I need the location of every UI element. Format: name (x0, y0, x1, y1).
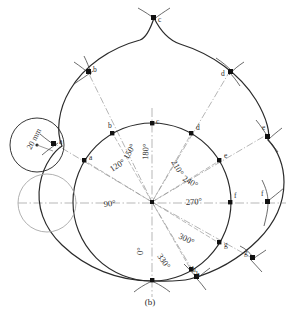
construction-drawing: 20 mm (0, 0, 300, 320)
outer-label-g: g (244, 248, 248, 257)
outer-marker-d (228, 69, 233, 74)
outer-marker-b (86, 69, 91, 74)
inner-marker-b (110, 131, 114, 135)
inner-marker-e (217, 158, 221, 162)
arc-g-3 (251, 260, 262, 272)
angle-labels: 0° 90° 120° 150° 180° 210° 240° 270° 300… (103, 142, 202, 271)
outer-label-f: f (261, 189, 264, 198)
arc-e-3 (267, 138, 278, 152)
outer-label-c: c (158, 15, 162, 24)
inner-marker-f (228, 200, 232, 204)
center-marker (150, 200, 154, 204)
outer-label-e: e (262, 123, 266, 132)
figure-canvas: 20 mm (0, 0, 300, 320)
radial-line-g (152, 202, 252, 258)
angle-label-300: 300° (177, 231, 196, 247)
angle-label-150: 150° (121, 142, 137, 161)
outer-label-b: b (93, 65, 97, 74)
outer-marker-g (250, 255, 255, 260)
outer-label-a: a (59, 137, 63, 146)
arc-zero-2 (154, 282, 170, 292)
spoke-d (152, 134, 191, 202)
inner-label-a: a (89, 153, 93, 162)
inner-marker-a (82, 158, 86, 162)
outer-point-markers (51, 15, 270, 279)
outer-marker-a (51, 141, 56, 146)
inner-label-b: b (108, 121, 112, 130)
outer-marker-f (265, 199, 270, 204)
arc-zero-1 (134, 282, 150, 292)
outer-label-h: h (192, 265, 196, 274)
inner-label-c: c (156, 117, 160, 126)
arc-e-2 (268, 128, 282, 140)
radial-line-e (152, 134, 268, 202)
angle-label-0: 0° (135, 247, 145, 255)
outer-marker-c (151, 15, 156, 20)
figure-caption: (b) (0, 297, 300, 307)
angle-label-90: 90° (103, 198, 116, 209)
inner-label-d: d (196, 123, 200, 132)
inner-marker-zero (150, 278, 154, 282)
outer-marker-e (265, 134, 270, 139)
inner-marker-c (150, 121, 154, 125)
outer-label-d: d (221, 69, 225, 78)
angle-label-270: 270° (185, 196, 202, 207)
inner-marker-g (217, 240, 221, 244)
inner-label-e: e (224, 151, 228, 160)
arc-f-2 (264, 204, 268, 226)
inner-label-h: h (196, 270, 200, 279)
outer-point-labels: a b c d e f g h (59, 15, 266, 274)
inner-marker-d (189, 131, 193, 135)
dimension-label-20mm: 20 mm (25, 126, 44, 151)
outer-generated-curve (39, 18, 284, 281)
radial-division-lines (55, 71, 268, 276)
arc-h-3 (197, 279, 206, 290)
inner-label-f: f (234, 191, 237, 200)
angle-label-120: 120° (108, 157, 127, 174)
angle-label-330: 330° (155, 252, 172, 271)
angle-label-180: 180° (140, 144, 151, 160)
inner-label-g: g (224, 240, 228, 249)
